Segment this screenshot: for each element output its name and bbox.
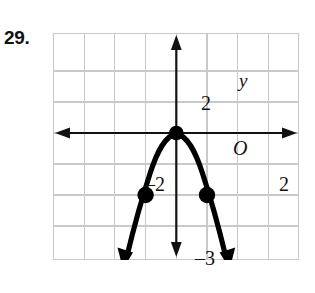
x-tick-label-negative-2: –2 [145, 174, 165, 194]
problem-figure: 29. [0, 0, 315, 293]
problem-number: 29. [4, 28, 30, 47]
coordinate-graph: y x O 2 –2 2 –3 [53, 33, 299, 260]
y-tick-label-negative-3: –3 [195, 248, 215, 268]
y-tick-label-2: 2 [201, 93, 211, 113]
y-axis-label: y [239, 71, 247, 90]
point-vertex [169, 126, 184, 141]
point-right [199, 187, 215, 203]
graph-canvas [53, 33, 299, 260]
y-axis [171, 35, 182, 257]
origin-label: O [233, 138, 247, 158]
x-tick-label-2: 2 [279, 174, 289, 194]
